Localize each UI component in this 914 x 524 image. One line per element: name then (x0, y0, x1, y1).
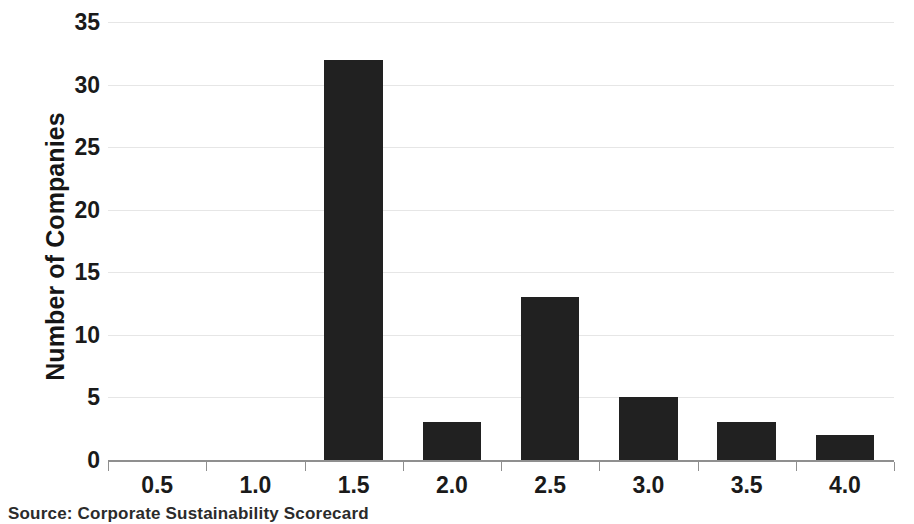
bar (521, 297, 579, 460)
bar-group (108, 22, 894, 460)
y-axis-tick-label: 35 (4, 9, 100, 36)
y-axis-tick-label: 30 (4, 71, 100, 98)
x-axis-tick (698, 462, 699, 471)
x-axis-tick (403, 462, 404, 471)
bar (423, 422, 481, 460)
x-axis-tick-label-group: 0.51.01.52.02.53.03.54.0 (108, 472, 894, 504)
x-axis-tick-label: 4.0 (829, 472, 861, 499)
x-axis-tick-label: 0.5 (141, 472, 173, 499)
y-axis-tick-label: 10 (4, 321, 100, 348)
x-axis-tick-label: 1.0 (239, 472, 271, 499)
x-axis-tick (796, 462, 797, 471)
x-axis-tick-label: 2.0 (436, 472, 468, 499)
x-axis-tick-label: 3.5 (731, 472, 763, 499)
x-axis-tick-label: 2.5 (534, 472, 566, 499)
bar (619, 397, 677, 460)
x-axis-tick (501, 462, 502, 471)
x-axis-tick-label: 3.0 (632, 472, 664, 499)
y-axis-tick-label: 20 (4, 196, 100, 223)
x-axis-tick (206, 462, 207, 471)
x-axis-tick (305, 462, 306, 471)
x-axis-tick (108, 462, 109, 471)
source-caption: Source: Corporate Sustainability Scoreca… (8, 504, 369, 524)
y-axis-tick-label: 25 (4, 134, 100, 161)
y-axis-tick-label-group: 05101520253035 (0, 0, 100, 519)
bar (324, 60, 382, 460)
x-axis-tick (894, 462, 895, 471)
x-axis-tick (599, 462, 600, 471)
bar (717, 422, 775, 460)
y-axis-tick-label: 15 (4, 259, 100, 286)
x-axis-tick-label: 1.5 (338, 472, 370, 499)
y-axis-tick-label: 0 (4, 447, 100, 474)
bar (816, 435, 874, 460)
y-axis-tick-label: 5 (4, 384, 100, 411)
